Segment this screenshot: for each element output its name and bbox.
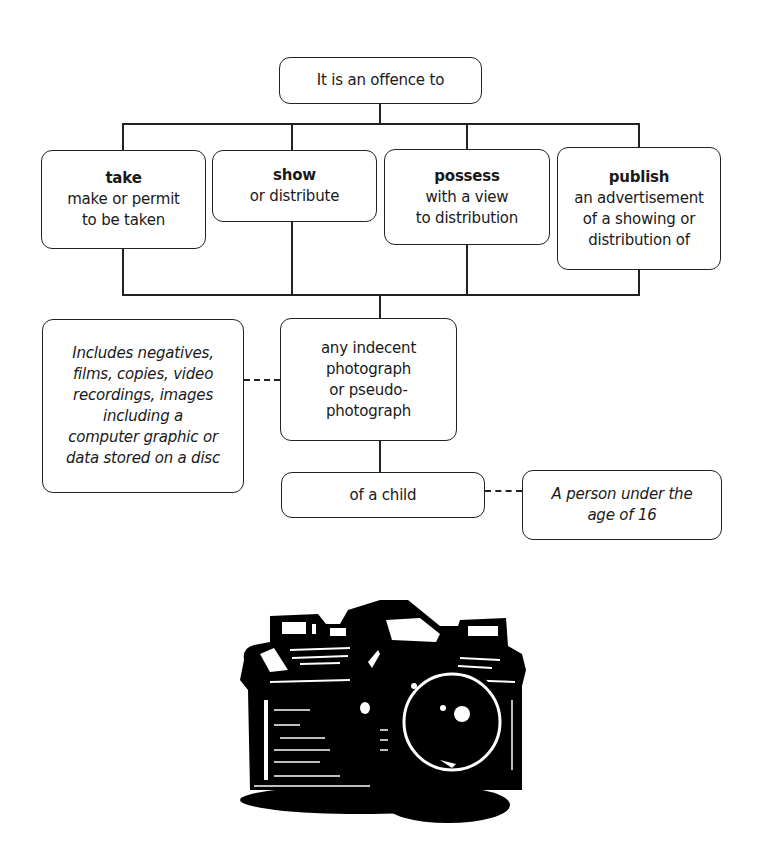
action-node-possess: possess with a view to distribution <box>384 149 550 245</box>
subject-label: of a child <box>350 485 417 506</box>
note-node-age: A person under the age of 16 <box>522 470 722 540</box>
camera-icon <box>230 590 535 830</box>
action-node-take: take make or permit to be taken <box>41 150 206 249</box>
action-publish-line-3: distribution of <box>588 230 690 251</box>
note-age-line-2: age of 16 <box>587 505 656 526</box>
connector-bottom-bar <box>122 294 640 296</box>
object-line-4: photograph <box>326 401 411 422</box>
connector-publish-in <box>638 123 640 147</box>
action-take-line-2: to be taken <box>82 210 165 231</box>
note-node-includes: Includes negatives, films, copies, video… <box>42 319 244 493</box>
connector-root-stem <box>379 104 381 125</box>
connector-object-stem <box>379 294 381 318</box>
action-take-heading: take <box>105 168 141 189</box>
action-take-line-1: make or permit <box>67 189 180 210</box>
action-publish-line-1: an advertisement <box>574 188 704 209</box>
dashed-connector-subject-note <box>485 490 522 492</box>
object-line-2: photograph <box>326 359 411 380</box>
note-includes-line-5: computer graphic or <box>68 427 218 448</box>
note-includes-line-1: Includes negatives, <box>72 343 214 364</box>
connector-show-out <box>291 222 293 295</box>
note-includes-line-3: recordings, images <box>73 385 213 406</box>
root-node-offence: It is an offence to <box>279 57 482 104</box>
dashed-connector-object-note <box>244 379 280 381</box>
connector-top-bar <box>122 123 640 125</box>
object-line-1: any indecent <box>321 338 416 359</box>
connector-take-out <box>122 249 124 295</box>
action-show-heading: show <box>273 165 316 186</box>
action-node-publish: publish an advertisement of a showing or… <box>557 147 721 270</box>
note-includes-line-2: films, copies, video <box>73 364 213 385</box>
note-includes-line-6: data stored on a disc <box>66 448 220 469</box>
connector-possess-in <box>466 123 468 149</box>
note-includes-line-4: including a <box>103 406 183 427</box>
subject-node-child: of a child <box>281 472 485 518</box>
object-node-indecent-photograph: any indecent photograph or pseudo- photo… <box>280 318 457 441</box>
note-age-line-1: A person under the <box>552 484 693 505</box>
action-possess-line-2: to distribution <box>416 208 518 229</box>
connector-subject-stem <box>379 441 381 472</box>
action-possess-line-1: with a view <box>426 187 509 208</box>
object-line-3: or pseudo- <box>329 380 408 401</box>
connector-show-in <box>291 123 293 150</box>
action-show-line-1: or distribute <box>250 186 339 207</box>
root-node-label: It is an offence to <box>317 70 444 91</box>
action-publish-line-2: of a showing or <box>583 209 695 230</box>
connector-publish-out <box>638 270 640 295</box>
action-publish-heading: publish <box>609 167 670 188</box>
connector-possess-out <box>466 245 468 295</box>
action-possess-heading: possess <box>434 166 500 187</box>
action-node-show: show or distribute <box>212 150 377 222</box>
connector-take-in <box>122 123 124 150</box>
